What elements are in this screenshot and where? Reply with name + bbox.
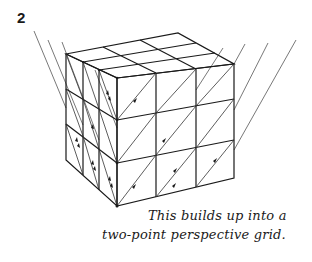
- caption-line-2: two-point perspective grid.: [102, 225, 312, 244]
- caption: This builds up into a two-point perspect…: [140, 206, 312, 244]
- top-face: [66, 33, 234, 78]
- right-guide-lines: [196, 40, 296, 150]
- right-face-arrows: [132, 98, 217, 189]
- caption-line-1: This builds up into a: [140, 206, 312, 225]
- left-face: [66, 54, 117, 206]
- right-face-diagonals: [117, 64, 234, 206]
- right-face: [117, 64, 234, 206]
